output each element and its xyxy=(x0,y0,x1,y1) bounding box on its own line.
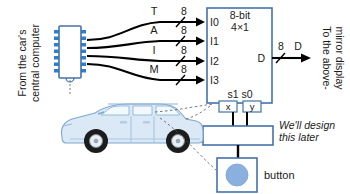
button-label: button xyxy=(264,169,295,181)
annotation-line2: this later xyxy=(279,131,319,143)
destination-line1: To the above- xyxy=(321,26,333,90)
input-bus-wires xyxy=(87,22,196,80)
input-signal-1: A xyxy=(150,24,158,36)
input-signal-labels: T A I M xyxy=(149,5,158,75)
mux-port-i0: I0 xyxy=(210,16,219,28)
mux-label-line2: 4×1 xyxy=(231,21,249,33)
input-signal-3: M xyxy=(149,63,158,75)
output-destination-label: To the above- mirror display xyxy=(321,26,346,90)
input-signal-0: T xyxy=(151,5,158,17)
source-label-line1: From the car's xyxy=(16,30,28,97)
source-label-line2: central computer xyxy=(29,23,41,102)
output-signal-label: D xyxy=(294,40,302,52)
mux-port-i1: I1 xyxy=(210,35,219,47)
annotation-line1: We'll design xyxy=(279,119,335,131)
input-width-2: 8 xyxy=(181,44,187,56)
source-label: From the car's central computer xyxy=(16,23,41,102)
input-arrowheads xyxy=(196,18,205,85)
mux-port-i3: I3 xyxy=(210,74,219,86)
destination-line2: mirror display xyxy=(334,26,346,90)
mux-port-i2: I2 xyxy=(210,55,219,67)
select-bit-x-label: x xyxy=(226,101,231,112)
round-button-icon[interactable] xyxy=(226,164,248,186)
future-design-block[interactable] xyxy=(203,126,273,145)
input-signal-2: I xyxy=(152,44,155,56)
input-width-1: 8 xyxy=(181,24,187,36)
input-width-3: 8 xyxy=(181,63,187,75)
car-suv-icon xyxy=(61,104,203,153)
input-width-0: 8 xyxy=(181,5,187,17)
diagram-canvas: From the car's central computer xyxy=(0,0,350,194)
car-rear-leader xyxy=(186,106,210,119)
mux-select-label: s1 s0 xyxy=(227,88,252,100)
ic-chip-icon xyxy=(54,26,86,82)
select-bit-y-label: y xyxy=(250,101,255,112)
mux-label-line1: 8-bit xyxy=(230,9,251,21)
mux-output-port-label: D xyxy=(257,52,265,64)
output-arrowhead xyxy=(301,54,311,63)
output-width-label: 8 xyxy=(278,40,284,52)
